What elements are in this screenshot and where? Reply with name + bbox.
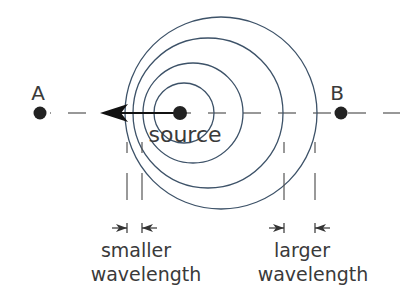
diagram-canvas: A B source [0, 0, 407, 303]
left-caption-line2: wavelength [91, 263, 202, 285]
right-wavelength-ticks [284, 142, 315, 200]
source-dot [173, 106, 187, 120]
left-wavelength-ticks [127, 142, 142, 200]
doppler-diagram: A B source [0, 0, 407, 303]
right-dimension-arrows-icon [269, 223, 330, 233]
left-caption-line1: smaller [101, 239, 171, 261]
source-label: source [148, 122, 221, 147]
point-b-dot [335, 107, 348, 120]
velocity-arrow-icon [100, 104, 180, 122]
left-dimension-arrows-icon [112, 223, 157, 233]
right-caption-line2: wavelength [258, 263, 369, 285]
point-a-dot [34, 107, 47, 120]
right-caption-line1: larger [274, 239, 330, 261]
point-b-label: B [330, 81, 344, 105]
point-a-label: A [31, 81, 45, 105]
